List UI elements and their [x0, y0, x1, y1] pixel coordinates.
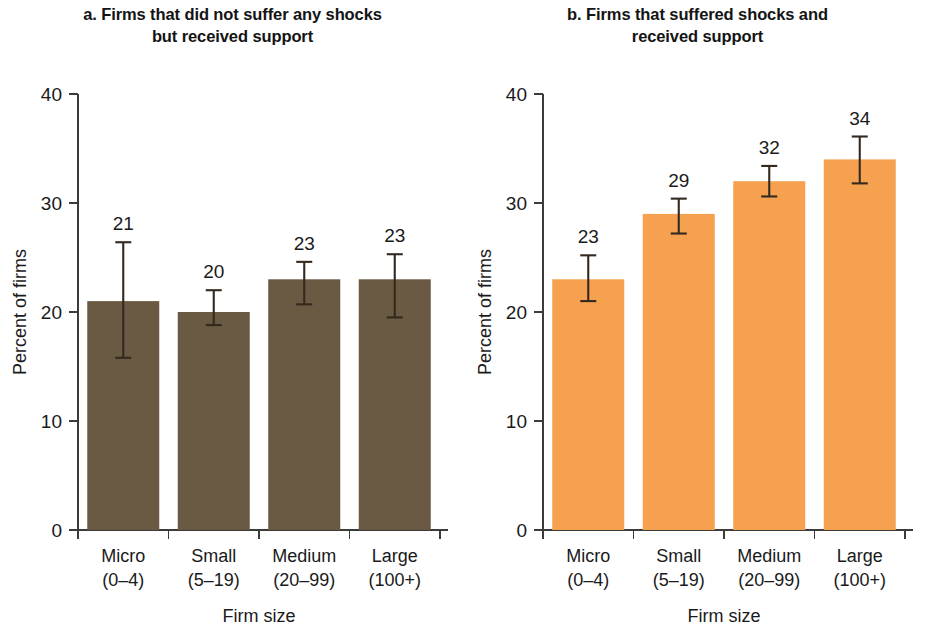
x-tick-label-range: (0–4)	[567, 570, 609, 590]
bar-value-label: 23	[578, 226, 599, 247]
bar-small	[643, 214, 715, 530]
x-tick-label-name: Large	[372, 546, 418, 566]
x-axis-title: Firm size	[223, 606, 296, 626]
y-tick-label: 10	[41, 411, 62, 432]
panel-b: b. Firms that suffered shocks and receiv…	[465, 0, 930, 631]
x-tick-label-name: Small	[191, 546, 236, 566]
x-tick-label-range: (100+)	[368, 570, 421, 590]
bar-medium	[268, 279, 340, 530]
y-tick-label: 30	[41, 193, 62, 214]
bar-large	[824, 159, 896, 530]
x-tick-label-range: (20–99)	[738, 570, 800, 590]
x-tick-label-range: (5–19)	[188, 570, 240, 590]
y-axis-title: Percent of firms	[475, 249, 495, 375]
bar-value-label: 21	[113, 213, 134, 234]
x-tick-label-name: Large	[837, 546, 883, 566]
figure-container: a. Firms that did not suffer any shocks …	[0, 0, 930, 631]
bar-medium	[733, 181, 805, 530]
panel-a-plot: 010203040Percent of firms21Micro(0–4)20S…	[0, 0, 465, 631]
bar-value-label: 29	[668, 170, 689, 191]
panel-a: a. Firms that did not suffer any shocks …	[0, 0, 465, 631]
bar-value-label: 23	[294, 233, 315, 254]
bar-value-label: 20	[203, 261, 224, 282]
y-tick-label: 0	[516, 520, 527, 541]
y-tick-label: 0	[51, 520, 62, 541]
y-tick-label: 20	[506, 302, 527, 323]
y-tick-label: 20	[41, 302, 62, 323]
panel-b-plot: 010203040Percent of firms23Micro(0–4)29S…	[465, 0, 930, 631]
x-tick-label-range: (100+)	[833, 570, 886, 590]
x-tick-label-range: (5–19)	[653, 570, 705, 590]
y-tick-label: 40	[41, 84, 62, 105]
y-axis-title: Percent of firms	[10, 249, 30, 375]
x-axis-title: Firm size	[688, 606, 761, 626]
x-tick-label-range: (20–99)	[273, 570, 335, 590]
x-tick-label-range: (0–4)	[102, 570, 144, 590]
bar-value-label: 23	[384, 225, 405, 246]
bar-value-label: 32	[759, 137, 780, 158]
y-tick-label: 30	[506, 193, 527, 214]
x-tick-label-name: Medium	[272, 546, 336, 566]
x-tick-label-name: Small	[656, 546, 701, 566]
bar-value-label: 34	[849, 108, 871, 129]
y-tick-label: 40	[506, 84, 527, 105]
bar-micro	[552, 279, 624, 530]
x-tick-label-name: Micro	[566, 546, 610, 566]
y-tick-label: 10	[506, 411, 527, 432]
x-tick-label-name: Micro	[101, 546, 145, 566]
bar-small	[178, 312, 250, 530]
x-tick-label-name: Medium	[737, 546, 801, 566]
